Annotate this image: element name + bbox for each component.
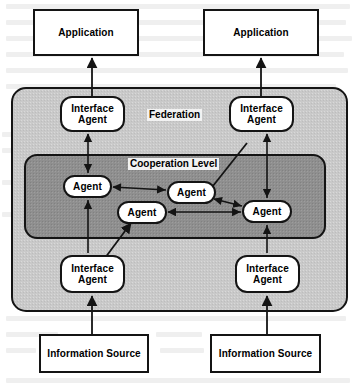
interface-agent-top-right-line2: Agent [247,114,276,125]
application-left-label: Application [34,10,138,55]
interface-agent-bottom-right-label: Interface Agent [236,256,299,292]
info-source-right-label: Information Source [211,335,320,372]
info-source-left-label: Information Source [40,335,148,372]
interface-agent-bottom-left-line1: Interface [71,263,114,274]
interface-agent-top-left-label: Interface Agent [61,97,124,131]
agent-3-label: Agent [118,202,166,223]
interface-agent-top-left-line2: Agent [78,114,107,125]
interface-agent-bottom-left-line2: Agent [78,274,107,285]
agent-2-label: Agent [168,182,215,203]
application-right-label: Application [204,10,318,55]
interface-agent-top-right-line1: Interface [240,103,283,114]
diagram-canvas: Application Application Information Sour… [0,0,355,386]
interface-agent-bottom-right-line1: Interface [246,263,289,274]
interface-agent-bottom-left-label: Interface Agent [61,256,124,292]
federation-region-label: Federation [147,109,202,121]
interface-agent-bottom-right-line2: Agent [253,274,282,285]
interface-agent-top-left-line1: Interface [71,103,114,114]
agent-1-label: Agent [64,176,111,197]
cooperation-level-region-label: Cooperation Level [128,158,219,170]
agent-4-label: Agent [243,201,291,222]
interface-agent-top-right-label: Interface Agent [230,97,293,131]
